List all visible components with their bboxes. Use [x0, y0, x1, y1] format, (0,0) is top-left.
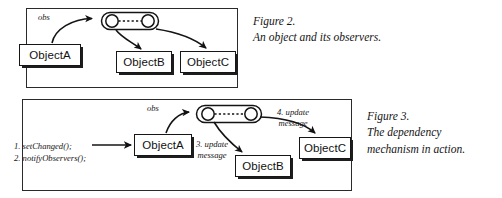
figure-page: obs ObjectA ObjectB ObjectC obs 1. setCh… [0, 0, 502, 198]
figure3-caption: Figure 3. The dependency mechanism in ac… [367, 108, 465, 157]
figure3-call-label-1: 1. setChanged(); [14, 140, 86, 152]
figure2-obs-label: obs [38, 12, 50, 22]
figure3-update-label-3-line-1: 3. update [196, 139, 228, 150]
figure2-object-b-box: ObjectB [116, 51, 172, 73]
figure3-update-message-label-4: 4. update message [277, 107, 309, 128]
figure3-object-a-box: ObjectA [134, 134, 192, 156]
figure3-object-c-box: ObjectC [299, 137, 351, 159]
figure3-call-sequence-labels: 1. setChanged(); 2. notifyObservers(); [14, 140, 86, 165]
figure3-update-label-4-line-2: message [277, 118, 309, 129]
figure3-update-label-3-line-2: message [196, 150, 228, 161]
figure3-caption-line-3: mechanism in action. [367, 141, 465, 157]
figure3-obs-label: obs [147, 103, 159, 113]
figure3-update-label-4-line-1: 4. update [277, 107, 309, 118]
figure2-caption-line-2: An object and its observers. [253, 29, 381, 45]
figure2-caption-line-1: Figure 2. [253, 13, 381, 29]
figure3-call-label-2: 2. notifyObservers(); [14, 152, 86, 164]
figure3-update-message-label-3: 3. update message [196, 139, 228, 160]
figure2-object-a-box: ObjectA [19, 44, 81, 66]
figure3-object-b-box: ObjectB [235, 155, 291, 177]
figure3-caption-line-2: The dependency [367, 124, 465, 140]
figure2-caption: Figure 2. An object and its observers. [253, 13, 381, 46]
figure2-object-c-box: ObjectC [180, 51, 236, 73]
figure3-caption-line-1: Figure 3. [367, 108, 465, 124]
